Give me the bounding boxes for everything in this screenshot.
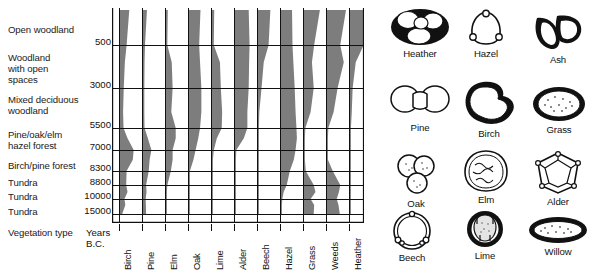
pollen-grain-label-birch: Birch — [458, 128, 520, 139]
pollen-grain-birch: Birch — [458, 80, 520, 139]
pollen-curve-pine — [143, 10, 151, 214]
taxon-tick-hazel — [280, 224, 281, 231]
pollen-curve-lime — [212, 10, 222, 214]
pollen-grain-label-hazel: Hazel — [460, 48, 512, 59]
year-tick-label: 10000 — [84, 190, 111, 201]
year-tick-label: 8300 — [90, 162, 111, 173]
pollen-grain-label-grass: Grass — [528, 124, 590, 135]
pollen-curves-group — [120, 10, 364, 214]
pollen-grain-label-elm: Elm — [456, 194, 516, 205]
year-tick-label: 3000 — [90, 79, 111, 90]
pollen-grain-oak: Oak — [390, 152, 442, 209]
pollen-grain-ash: Ash — [520, 10, 596, 65]
pollen-curve-birch — [120, 10, 134, 214]
heather-pollen-icon — [384, 6, 456, 48]
pollen-grain-label-pine: Pine — [384, 122, 456, 133]
pollen-curve-grass — [304, 10, 320, 214]
taxon-label-pine: Pine — [145, 252, 156, 270]
taxon-label-elm: Elm — [168, 254, 179, 270]
pollen-grain-label-beech: Beech — [386, 252, 438, 263]
taxon-label-lime: Lime — [214, 250, 225, 270]
taxon-tick-birch — [119, 224, 120, 231]
pollen-grain-alder: Alder — [528, 150, 588, 207]
taxon-label-hazel: Hazel — [283, 247, 294, 270]
pollen-grain-pine: Pine — [384, 82, 456, 133]
year-tick-label: 15000 — [84, 205, 111, 216]
pollen-grain-label-heather: Heather — [384, 48, 456, 59]
taxa-label-row: BirchPineElmOakLimeAlderBeechHazelGrassW… — [112, 224, 364, 272]
pine-pollen-icon — [384, 82, 456, 122]
oak-pollen-icon — [390, 152, 442, 198]
pollen-grain-elm: Elm — [456, 148, 516, 205]
pollen-grain-label-oak: Oak — [390, 198, 442, 209]
pollen-grain-beech: Beech — [386, 210, 438, 263]
year-tick-label: 5500 — [90, 119, 111, 130]
pollen-diagram-figure: Open woodland Woodlandwith openspaces Mi… — [0, 0, 602, 272]
taxon-label-beech: Beech — [260, 244, 271, 270]
taxon-tick-elm — [165, 224, 166, 231]
pollen-grain-label-alder: Alder — [528, 196, 588, 207]
taxon-tick-beech — [257, 224, 258, 231]
pollen-curve-oak — [189, 10, 201, 214]
pollen-curve-elm — [166, 10, 176, 214]
elm-pollen-icon — [456, 148, 516, 194]
pollen-curve-beech — [258, 10, 270, 214]
lime-pollen-icon — [460, 208, 510, 250]
birch-pollen-icon — [458, 80, 520, 128]
pollen-grain-willow: Willow — [524, 214, 592, 257]
taxon-label-oak: Oak — [191, 253, 202, 270]
years-column: 500 3000 5500 7000 8300 8800 10000 15000… — [84, 0, 112, 272]
willow-pollen-icon — [524, 214, 592, 246]
pollen-grain-grass: Grass — [528, 84, 590, 135]
taxon-tick-heather — [349, 224, 350, 231]
taxon-tick-grass — [303, 224, 304, 231]
taxon-label-grass: Grass — [306, 246, 317, 270]
year-tick-label: 8800 — [90, 176, 111, 187]
hazel-pollen-icon — [460, 8, 512, 48]
pollen-grain-label-lime: Lime — [460, 250, 510, 261]
grass-pollen-icon — [528, 84, 590, 124]
pollen-curve-alder — [235, 10, 250, 214]
beech-pollen-icon — [386, 210, 438, 252]
taxon-tick-pine — [142, 224, 143, 231]
pollen-grain-heather: Heather — [384, 6, 456, 59]
taxon-label-alder: Alder — [237, 249, 248, 270]
year-tick-label: 7000 — [90, 141, 111, 152]
taxon-tick-weeds — [326, 224, 327, 231]
pollen-curve-heather — [350, 10, 364, 214]
pollen-curve-weeds — [327, 10, 346, 214]
pollen-curve-chart — [112, 8, 364, 223]
taxon-label-weeds: Weeds — [329, 242, 340, 270]
pollen-grain-hazel: Hazel — [460, 8, 512, 59]
pollen-grain-lime: Lime — [460, 208, 510, 261]
ash-pollen-icon — [520, 10, 596, 54]
pollen-curve-hazel — [281, 10, 297, 214]
alder-pollen-icon — [528, 150, 588, 196]
taxon-tick-alder — [234, 224, 235, 231]
taxon-label-birch: Birch — [122, 250, 133, 270]
year-tick-label: 500 — [95, 36, 111, 47]
pollen-grain-gallery: Heather Hazel Ash Pine Birch — [382, 2, 602, 272]
taxon-tick-oak — [188, 224, 189, 231]
pollen-grain-label-ash: Ash — [520, 54, 596, 65]
taxon-label-heather: Heather — [352, 238, 363, 270]
years-axis-label: YearsB.C. — [86, 227, 110, 249]
taxon-tick-lime — [211, 224, 212, 231]
pollen-grain-label-willow: Willow — [524, 246, 592, 257]
